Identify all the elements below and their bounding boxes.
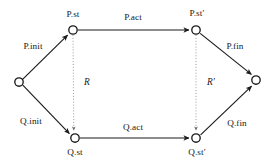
edge-label-q-fin: Q.fin — [227, 119, 247, 128]
node-p-st[interactable] — [69, 26, 77, 34]
edge-r — [73, 35, 74, 131]
node-label-p-st-prime: P.st′ — [189, 9, 204, 18]
edge-p-fin — [200, 33, 251, 74]
node-start[interactable] — [15, 78, 23, 86]
edge-label-r-prime: R′ — [207, 78, 215, 87]
edge-label-p-init: P.init — [23, 42, 42, 51]
node-label-p-st: P.st — [67, 10, 80, 19]
edge-label-p-fin: P.fin — [226, 42, 243, 51]
edge-label-q-act: Q.act — [123, 123, 143, 132]
node-q-st[interactable] — [71, 134, 79, 142]
diagram-graphics — [0, 0, 276, 168]
node-q-st-prime[interactable] — [192, 134, 200, 142]
node-label-q-st: Q.st — [67, 148, 82, 157]
edge-label-p-act: P.act — [124, 13, 142, 22]
diagram-canvas: P.st P.st′ Q.st Q.st′ P.init P.act P.fin… — [0, 0, 276, 168]
node-label-q-st-prime: Q.st′ — [188, 148, 206, 157]
node-end[interactable] — [252, 76, 260, 84]
node-p-st-prime[interactable] — [192, 26, 200, 34]
edge-label-r: R — [84, 78, 90, 87]
edge-label-q-init: Q.init — [20, 117, 42, 126]
